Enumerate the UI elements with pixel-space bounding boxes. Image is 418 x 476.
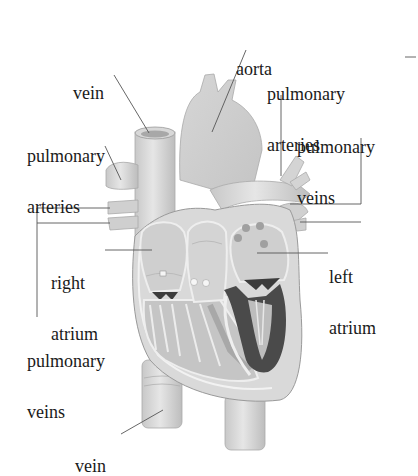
lower-aorta-shape <box>225 395 265 450</box>
label-vein-bottom: vein <box>75 424 106 476</box>
label-left-atrium: left atrium <box>329 235 376 371</box>
left-atrium-chamber <box>230 222 288 290</box>
label-line: left <box>329 269 376 286</box>
label-line: atrium <box>329 320 376 337</box>
label-line: pulmonary <box>267 86 345 103</box>
label-line: pulmonary <box>297 139 375 156</box>
label-line: right <box>51 275 98 292</box>
label-line: veins <box>27 404 105 421</box>
label-line: arteries <box>27 199 105 216</box>
label-line: vein <box>75 458 106 475</box>
label-pulmonary-arteries-left: pulmonary arteries <box>27 114 105 250</box>
label-line: veins <box>297 190 375 207</box>
label-line: pulmonary <box>27 353 105 370</box>
pulmonary-trunk-chamber <box>187 222 227 303</box>
label-pulmonary-veins-right: pulmonary veins <box>297 105 375 241</box>
left-pulmonary-arteries-shape <box>106 162 138 230</box>
label-line: pulmonary <box>27 148 105 165</box>
label-line: vein <box>73 85 104 102</box>
